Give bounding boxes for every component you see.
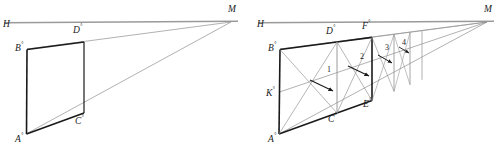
- degree-mark: °: [273, 86, 275, 92]
- label-vertex-c-right: C°: [328, 114, 337, 125]
- edge-bd-left: [27, 42, 84, 50]
- geometry-figure: H M B° D° C° A° H M B° D° F° K° E° C° A°: [0, 0, 499, 147]
- label-vertex-b-left: B°: [15, 43, 23, 54]
- label-vanishing-point-right: M: [484, 5, 492, 15]
- degree-mark: °: [82, 114, 84, 120]
- diagonal-cell3-b: [372, 35, 394, 101]
- degree-mark: °: [21, 41, 23, 47]
- left-panel: [4, 21, 238, 134]
- label-vertex-f-right: F°: [362, 21, 370, 32]
- degree-mark: °: [274, 41, 276, 47]
- label-vertex-c-left: C°: [75, 116, 84, 127]
- label-vanishing-point-left: M: [228, 5, 236, 15]
- label-vertex-e-right: E°: [363, 99, 371, 110]
- vanishing-ray-mid-right: [280, 22, 488, 92]
- label-vertex-k-right: K°: [266, 88, 275, 99]
- vanishing-ray-ac-left: [26, 22, 231, 134]
- label-vertex-b-right: B°: [268, 43, 276, 54]
- label-vertex-a-left: A°: [15, 134, 23, 145]
- degree-mark: °: [274, 132, 276, 138]
- degree-mark: °: [368, 19, 370, 25]
- edge-ab-right: [279, 50, 280, 135]
- cell-number-3: 3: [385, 44, 389, 52]
- label-horizon-left: H: [3, 20, 10, 30]
- label-vertex-d-right: D°: [326, 26, 335, 37]
- arrow-cell1-to-e: [310, 80, 333, 91]
- horizon-line-left: [4, 21, 238, 23]
- degree-mark: °: [335, 112, 337, 118]
- cell-number-4: 4: [402, 39, 406, 47]
- edge-df-right: [337, 37, 372, 42]
- label-horizon-right: H: [257, 20, 264, 30]
- diagonal-de-cell2: [337, 42, 372, 101]
- label-vertex-d-left: D°: [73, 25, 82, 36]
- diagonal-bc-cell1: [280, 50, 337, 114]
- cell-number-2: 2: [360, 53, 364, 61]
- arrow-cell4-to-next: [399, 47, 409, 53]
- label-vertex-a-right: A°: [268, 134, 276, 145]
- arrow-cell2-to-next: [348, 66, 369, 76]
- degree-mark: °: [21, 132, 23, 138]
- horizon-line-right: [258, 21, 494, 23]
- right-panel: [258, 21, 494, 134]
- degree-mark: °: [333, 24, 335, 30]
- edge-bd-right: [280, 42, 337, 50]
- diagonal-cell3-a: [372, 37, 394, 91]
- degree-mark: °: [80, 23, 82, 29]
- degree-mark: °: [369, 97, 371, 103]
- edge-ab-left: [27, 50, 28, 135]
- cell-number-1: 1: [327, 66, 331, 74]
- vanishing-ray-bottom-right: [279, 22, 487, 134]
